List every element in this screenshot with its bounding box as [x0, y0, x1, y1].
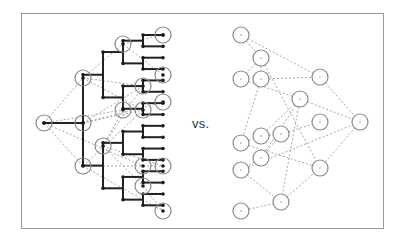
node-dot — [81, 121, 85, 125]
graph-node-center — [299, 98, 301, 100]
node-dot — [161, 33, 165, 37]
tree-joint — [101, 186, 105, 190]
node-dot — [101, 144, 105, 148]
versus-label: vs. — [192, 116, 210, 131]
tree-joint — [121, 62, 125, 66]
graph-dashed-edge — [320, 122, 360, 168]
node-dot — [42, 121, 46, 125]
tree-joint — [141, 45, 145, 49]
node-dot — [121, 108, 125, 112]
node-dot — [121, 42, 125, 46]
tree-joint — [121, 175, 125, 179]
tree-joint — [81, 73, 85, 77]
tree-joint — [141, 181, 145, 185]
tree-joint — [141, 90, 145, 94]
tree-joint — [141, 79, 145, 83]
tree-dashed-edge — [83, 78, 143, 110]
tree-dashed-edge — [44, 123, 83, 166]
tree-dashed-edge — [44, 78, 83, 123]
graph-node-center — [240, 142, 242, 144]
graph-node-center — [260, 157, 262, 159]
tree-joint — [141, 56, 145, 60]
tree-joint — [141, 67, 145, 71]
tree-dashed-edge — [83, 110, 143, 166]
tree-dashed-edge — [103, 110, 123, 146]
graph-node-center — [280, 133, 282, 135]
tree-joint — [141, 135, 145, 139]
graph-dashed-edge — [261, 77, 320, 79]
graph-node-center — [260, 78, 262, 80]
tree-dashed-edge — [83, 78, 143, 86]
node-dot — [141, 108, 145, 112]
graph-node-center — [280, 201, 282, 203]
tree-joint — [141, 113, 145, 117]
tree-joint — [141, 147, 145, 151]
tree-joint — [141, 124, 145, 128]
graph-node-center — [240, 78, 242, 80]
node-dot — [141, 164, 145, 168]
tree-joint — [121, 39, 125, 43]
tree-joint — [141, 204, 145, 208]
tree-joint — [141, 169, 145, 173]
graph-dashed-edge — [320, 77, 360, 122]
tree-joint — [121, 130, 125, 134]
tree-joint — [101, 141, 105, 145]
tree-joint — [121, 84, 125, 88]
tree-joint — [101, 50, 105, 54]
tree-dashed-edge — [44, 123, 143, 166]
graph-node-center — [319, 76, 321, 78]
graph-node-center — [319, 121, 321, 123]
tree-joint — [101, 96, 105, 100]
node-dot — [141, 84, 145, 88]
tree-dashed-edge — [83, 86, 143, 123]
tree-joint — [121, 152, 125, 156]
node-dot — [81, 76, 85, 80]
tree-joint — [121, 198, 125, 202]
graph-node-center — [240, 34, 242, 36]
graph-node-center — [240, 210, 242, 212]
graph-node-center — [319, 167, 321, 169]
node-dot — [141, 184, 145, 188]
graph-dashed-edge — [241, 79, 300, 99]
tree-dashed-edge — [143, 186, 163, 211]
node-dot — [161, 100, 165, 104]
graph-node-center — [359, 121, 361, 123]
node-dot — [81, 164, 85, 168]
graph-node-center — [240, 169, 242, 171]
right-graph-nodes — [233, 27, 368, 219]
graph-dashed-edge — [300, 99, 360, 122]
graph-node-center — [260, 57, 262, 59]
node-dot — [161, 164, 165, 168]
tree-joint — [141, 33, 145, 37]
graph-node-center — [260, 135, 262, 137]
node-dot — [161, 73, 165, 77]
node-dot — [161, 209, 165, 213]
